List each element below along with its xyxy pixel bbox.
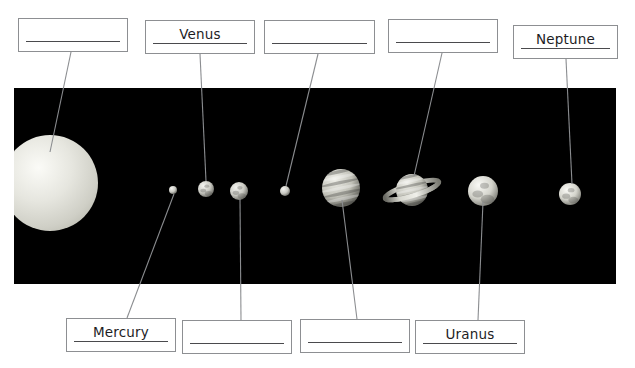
top-box-3-writing-rule [272,43,367,44]
top-box-4[interactable] [388,19,498,53]
top-box-5-inner: Neptune [514,26,617,58]
planet-venus [198,181,214,197]
top-box-4-writing-rule [396,42,490,43]
planet-earth [230,182,248,200]
top-box-1-writing-rule [26,41,120,42]
bottom-box-3-writing-rule [308,342,402,343]
planet-sun [14,135,98,231]
mercury-disc [169,186,177,194]
bottom-box-1-writing-rule [74,341,168,342]
worksheet-sheet: VenusNeptuneMercuryUranus [0,0,635,368]
top-box-5-writing-rule [521,48,610,49]
bottom-box-3[interactable] [300,319,410,353]
top-box-4-inner [389,20,497,52]
bottom-box-2-inner [183,321,291,353]
top-box-2-writing-rule [153,43,247,44]
bottom-box-4-answer-text: Uranus [445,328,494,342]
top-box-3-inner [265,21,374,53]
planet-shapes [14,135,581,231]
top-box-2-inner: Venus [146,21,254,53]
planet-mars [280,186,290,196]
mars-disc [280,186,290,196]
top-box-2-answer-text: Venus [179,28,221,42]
bottom-box-1-inner: Mercury [67,319,175,351]
planet-saturn [384,172,441,208]
bottom-box-1-answer-text: Mercury [93,326,149,340]
bottom-box-4-writing-rule [423,343,517,344]
top-box-1-inner [19,19,127,51]
planet-layer [14,88,616,284]
bottom-box-1[interactable]: Mercury [66,318,176,352]
top-box-2[interactable]: Venus [145,20,255,54]
bottom-box-2-writing-rule [190,343,284,344]
planet-neptune [559,183,581,205]
bottom-box-3-inner [301,320,409,352]
top-box-5-answer-text: Neptune [536,33,595,47]
planet-mercury [169,186,177,194]
bottom-box-4[interactable]: Uranus [415,320,525,354]
bottom-box-4-inner: Uranus [416,321,524,353]
planet-uranus [468,176,498,206]
space-panel [14,88,616,284]
bottom-box-2[interactable] [182,320,292,354]
sun-disc [14,135,98,231]
top-box-5[interactable]: Neptune [513,25,618,59]
planet-jupiter [318,166,364,209]
top-box-3[interactable] [264,20,375,54]
top-box-1[interactable] [18,18,128,52]
